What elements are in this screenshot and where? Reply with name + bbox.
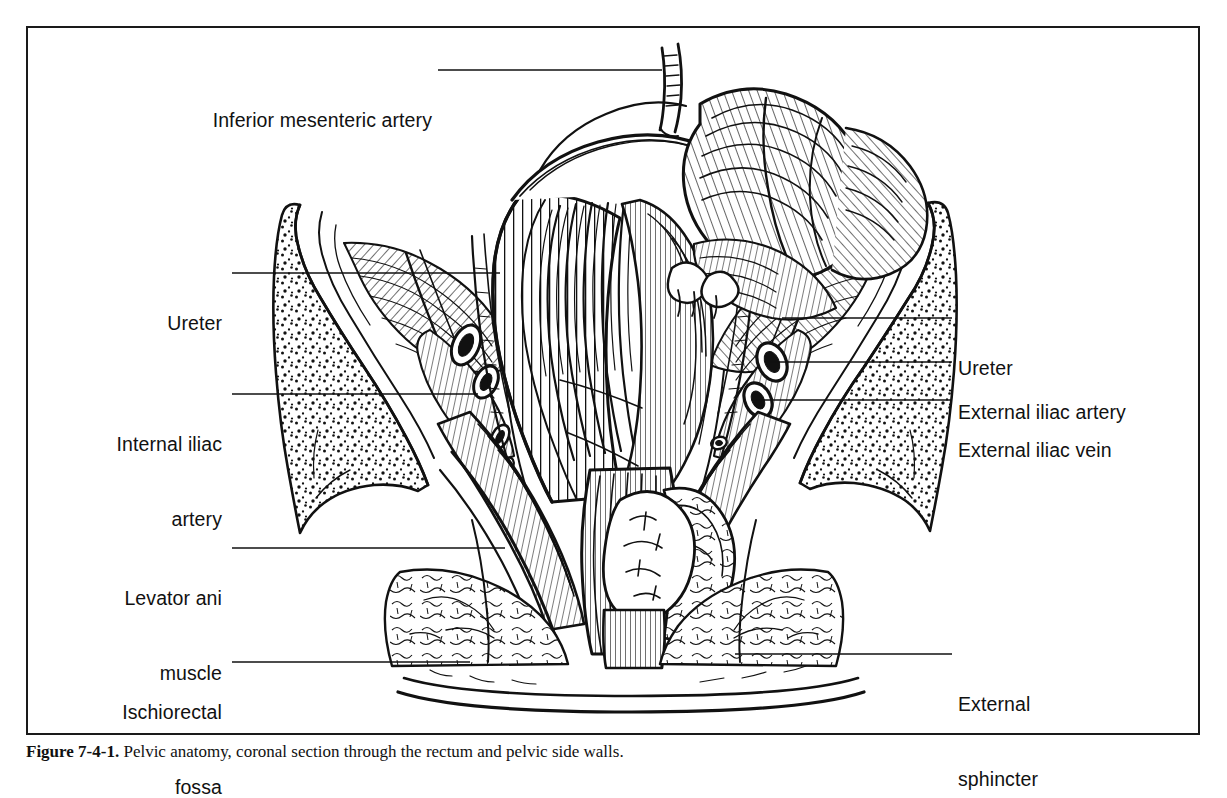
label-line: Levator ani	[40, 586, 222, 611]
label-line: Ureter	[40, 311, 222, 336]
label-line: Inferior mesenteric artery	[100, 108, 432, 133]
label-line: External	[958, 692, 1198, 717]
figure-caption-number: Figure 7-4-1.	[26, 742, 119, 761]
label-external-sphincter: External sphincter	[958, 642, 1198, 798]
label-external-iliac-vein: External iliac vein	[958, 388, 1202, 513]
label-line-2: fossa	[40, 775, 222, 798]
label-line: Internal iliac	[40, 432, 222, 457]
label-line: External iliac vein	[958, 438, 1202, 463]
label-line: Ischiorectal	[40, 700, 222, 725]
figure-caption-text: Pelvic anatomy, coronal section through …	[123, 742, 623, 761]
label-inferior-mesenteric-artery: Inferior mesenteric artery	[100, 58, 432, 183]
label-line-2: sphincter	[958, 767, 1198, 792]
label-ureter-left: Ureter	[40, 261, 222, 386]
label-line-2: artery	[40, 507, 222, 532]
figure-caption: Figure 7-4-1. Pelvic anatomy, coronal se…	[26, 742, 1200, 764]
label-ischiorectal-fossa: Ischiorectal fossa	[40, 650, 222, 798]
